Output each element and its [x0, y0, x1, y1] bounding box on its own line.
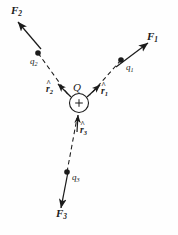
force-vector-F3-arrow [61, 172, 68, 208]
charge-dot-q3 [64, 169, 70, 175]
dashed-q3-to-Q [67, 118, 77, 172]
charge-label-q1: q1 [126, 63, 134, 73]
unit-vector-label-r3: r3 [80, 126, 87, 136]
charge-dot-q1 [118, 57, 124, 63]
unit-vector-label-r2: r2 [46, 85, 53, 95]
unit-vector-r3-arrow [77, 115, 78, 132]
central-charge-label: Q [73, 82, 81, 93]
force-label-F2: F2 [11, 5, 22, 18]
charge-dot-q2 [35, 50, 41, 56]
force-vectors [18, 22, 148, 208]
unit-vector-label-r1: r1 [101, 87, 108, 97]
force-label-F1: F1 [147, 31, 158, 44]
force-diagram-figure: F1 F2 F3 q1 q2 q3 r1 r2 r3 Q [0, 0, 178, 235]
charge-label-q3: q3 [72, 173, 80, 183]
charge-label-q2: q2 [30, 57, 38, 67]
force-label-F3: F3 [56, 208, 67, 221]
force-vector-F2-arrow [18, 22, 41, 49]
central-charge-marker [70, 94, 89, 113]
unit-vector-r1-arrow [87, 85, 100, 97]
unit-vector-r2-arrow [58, 84, 71, 97]
